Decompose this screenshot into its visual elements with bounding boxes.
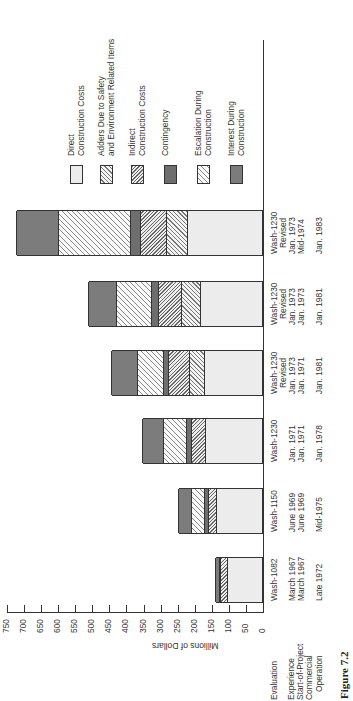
row-header-operation: Operation [315,655,325,692]
bar-segment-direct [227,558,262,602]
axis-tick-label: 500 [87,619,97,633]
bar-segment-contingency [186,419,192,463]
legend-label: Construction [237,109,247,156]
bar-segment-indirect [168,351,189,395]
stacked-bar [89,281,263,327]
legend-label: and Environment Related Items [107,39,117,156]
axis-tick [58,605,59,612]
row-header-evaluation: Evaluation [270,661,280,700]
figure-label: Figure 7.2 [338,652,350,699]
bar-segment-escalation [137,351,163,395]
axis-tick [92,605,93,612]
legend-swatch-contingency [164,165,177,184]
category-label-start: March 1967 [297,557,307,601]
bar-segment-contingency [204,489,208,533]
axis-tick [195,605,196,612]
bar-segment-contingency [130,211,140,255]
axis-tick [41,605,42,612]
stacked-bar [179,488,263,534]
axis-tick [161,605,162,612]
axis-tick-label: 50 [241,624,251,633]
legend-label: Construction [204,109,214,156]
bar-segment-direct [216,489,262,533]
bar-segment-contingency [219,558,220,602]
axis-tick-label: 300 [156,619,166,633]
legend-swatch-escalation [197,165,210,184]
axis-tick-label: 650 [36,619,46,633]
bar-segment-adders [181,282,200,326]
bar-segment-contingency [163,351,168,395]
legend-swatch-interest [230,165,243,184]
bar-segment-escalation [116,282,151,326]
category-label-evaluation: Wash-1082 [270,558,280,601]
legend-label: Contingency [161,109,171,156]
bar-segment-adders [166,211,187,255]
stacked-bar [17,210,263,256]
category-label-evaluation: Wash-1150 [270,490,280,532]
bar-segment-indirect [158,282,181,326]
stacked-bar [216,557,263,603]
category-label-operation: Mid-1975 [315,497,325,532]
axis-tick-label: 350 [139,619,149,633]
stacked-bar [112,350,263,396]
axis-tick-label: 250 [173,619,183,633]
category-label-evaluation: Wash-1230 [270,419,280,462]
bar-segment-adders [189,351,204,395]
bar-segment-interest [178,489,191,533]
baseline-axis-line [263,40,264,613]
category-label-operation: Late 1972 [315,564,325,601]
axis-tick [126,605,127,612]
bar-segment-indirect [140,211,166,255]
bar-segment-interest [16,211,58,255]
bar-segment-interest [142,419,163,463]
category-label-operation: Jan. 1978 [315,425,325,462]
axis-tick-label: 750 [2,619,12,633]
axis-tick-label: 600 [53,619,63,633]
stacked-bar [143,418,263,464]
bar-segment-escalation [58,211,130,255]
bar-segment-direct [187,211,262,255]
axis-title: Millions of Dollars [152,640,219,650]
value-axis-line [7,612,263,613]
legend-swatch-direct [70,165,83,184]
axis-tick-label: 450 [104,619,114,633]
bar-segment-direct [204,351,262,395]
axis-tick [7,605,8,612]
axis-tick [178,605,179,612]
axis-tick [24,605,25,612]
axis-tick [109,605,110,612]
axis-tick-label: 550 [70,619,80,633]
axis-tick [246,605,247,612]
category-label-operation: Jan. 1983 [315,217,325,254]
axis-tick-label: 150 [207,619,217,633]
bar-segment-interest [215,558,219,602]
axis-tick-label: 100 [224,619,234,633]
legend-swatch-indirect [131,165,144,184]
bar-segment-escalation [191,489,204,533]
legend-swatch-adders [100,165,113,184]
axis-tick [229,605,230,612]
category-label-start: Jan. 1971 [297,357,307,394]
category-label-operation: Jan. 1981 [315,357,325,394]
bar-segment-indirect [191,419,205,463]
legend-label: Construction Costs [138,85,148,156]
bar-segment-direct [200,282,262,326]
category-label-start: Jan. 1973 [297,288,307,325]
bar-segment-interest [88,282,117,326]
axis-tick [144,605,145,612]
axis-tick-label: 0 [258,628,268,633]
category-label-start: Mid-1974 [297,219,307,254]
category-label-start: June 1969 [297,493,307,532]
axis-tick-label: 400 [121,619,131,633]
bar-segment-indirect [208,489,216,533]
legend-label: Construction Costs [77,85,87,156]
axis-tick-label: 200 [190,619,200,633]
axis-tick [212,605,213,612]
axis-tick-label: 700 [19,619,29,633]
bar-segment-contingency [151,282,158,326]
bar-segment-escalation [163,419,186,463]
bar-segment-indirect [220,558,227,602]
bar-segment-interest [111,351,137,395]
category-label-operation: Jan. 1981 [315,288,325,325]
category-label-start: Jan. 1971 [297,425,307,462]
